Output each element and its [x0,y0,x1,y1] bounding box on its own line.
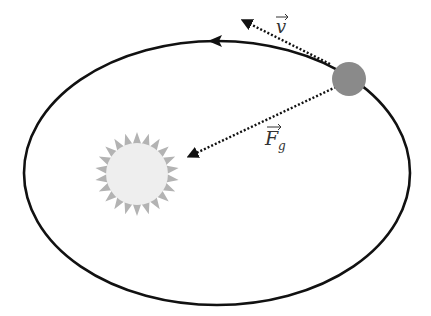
svg-text:g: g [278,139,286,153]
sun-icon [95,132,178,216]
force-label: F g [264,124,286,153]
orbit-diagram: v F g [0,0,431,316]
gravity-force-arrow [192,87,336,155]
velocity-label: v [276,14,288,37]
svg-text:F: F [264,127,279,149]
planet-icon [332,62,366,96]
svg-text:v: v [276,16,286,37]
